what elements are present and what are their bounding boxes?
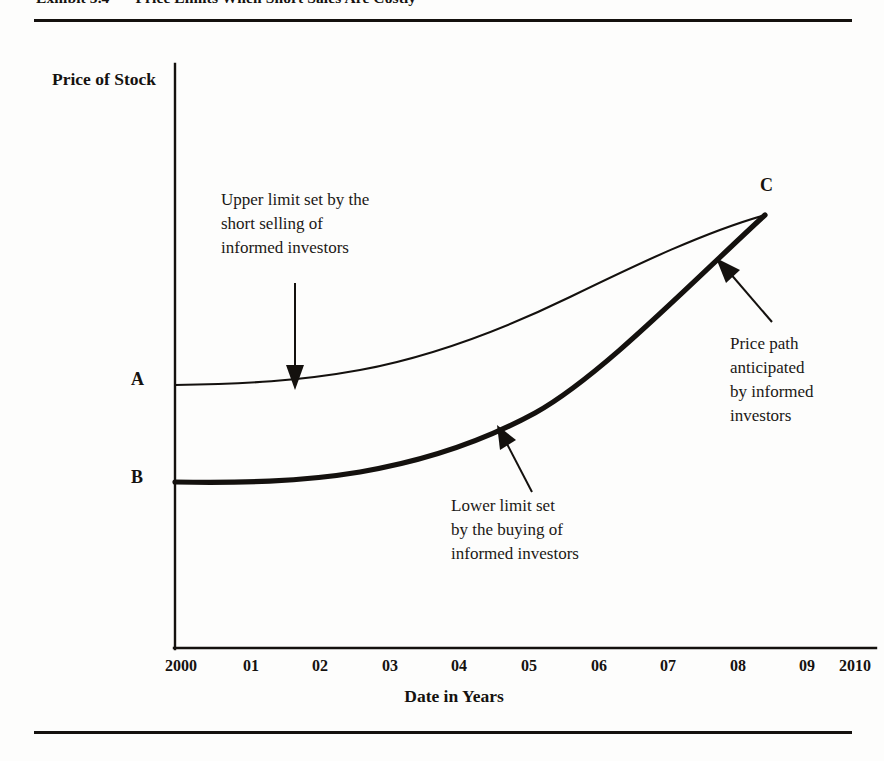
annotation-lower-limit: Lower limit set by the buying of informe… bbox=[451, 494, 681, 566]
x-axis-title: Date in Years bbox=[0, 686, 884, 707]
x-tick-label: 2000 bbox=[165, 657, 197, 675]
exhibit-title: Price Limits When Short Sales Are Costly bbox=[135, 0, 416, 7]
x-tick-label: 03 bbox=[382, 657, 398, 675]
y-axis-title: Price of Stock bbox=[52, 68, 164, 91]
top-rule bbox=[34, 19, 852, 22]
curve-label-c: C bbox=[760, 176, 773, 194]
curve-label-a: A bbox=[131, 370, 144, 388]
x-tick-label: 06 bbox=[591, 657, 607, 675]
x-tick-label: 04 bbox=[451, 657, 467, 675]
lower-annotation-arrow bbox=[497, 425, 532, 492]
annotation-upper-limit: Upper limit set by the short selling of … bbox=[221, 188, 471, 260]
x-tick-label: 07 bbox=[660, 657, 676, 675]
x-tick-label: 01 bbox=[243, 657, 259, 675]
exhibit-figure: Exhibit 5.4Price Limits When Short Sales… bbox=[0, 0, 884, 761]
x-axis-title-text: Date in Years bbox=[404, 686, 503, 707]
upper-annotation-arrow bbox=[286, 283, 304, 390]
exhibit-heading: Exhibit 5.4Price Limits When Short Sales… bbox=[36, 0, 856, 7]
price-path-annotation-arrow bbox=[716, 258, 772, 322]
curve-label-b: B bbox=[131, 468, 143, 486]
exhibit-number: Exhibit 5.4 bbox=[36, 0, 109, 7]
x-tick-label: 2010 bbox=[839, 657, 871, 675]
annotation-price-path: Price path anticipated by informed inves… bbox=[730, 332, 880, 429]
x-tick-label: 02 bbox=[312, 657, 328, 675]
x-tick-label: 09 bbox=[799, 657, 815, 675]
x-tick-label: 05 bbox=[521, 657, 537, 675]
x-tick-label: 08 bbox=[730, 657, 746, 675]
bottom-rule bbox=[34, 731, 852, 734]
